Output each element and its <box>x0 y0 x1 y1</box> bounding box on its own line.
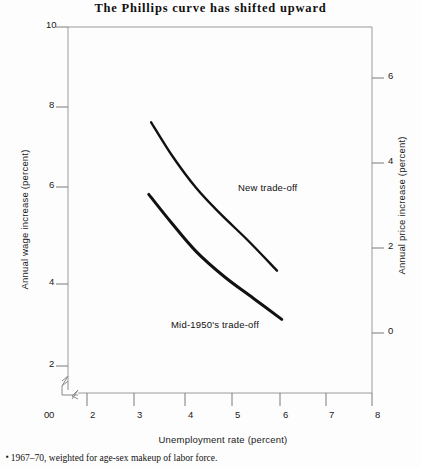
footnote-text: 1967–70, weighted for age-sex makeup of … <box>11 453 218 463</box>
x-tick-label-7: 7 <box>329 409 334 420</box>
y-tick-label-6: 6 <box>49 179 54 190</box>
chart-footnote: ▪1967–70, weighted for age-sex makeup of… <box>6 452 217 463</box>
annotation-mid-1950s-trade-off: Mid-1950's trade-off <box>171 319 259 330</box>
x-tick-label-0: 0 <box>44 409 49 420</box>
y-tick-label-10: 10 <box>46 19 57 30</box>
chart-plot-area <box>0 0 421 467</box>
x-tick-label-5: 5 <box>235 409 240 420</box>
y2-tick-label-6: 6 <box>388 70 393 81</box>
y-tick-label-4: 4 <box>49 276 54 287</box>
curve-new-trade-off <box>151 122 277 270</box>
y-axis-title: Annual wage increase (percent) <box>19 120 30 320</box>
annotation-new-trade-off: New trade-off <box>238 182 297 193</box>
x-axis-title: Unemployment rate (percent) <box>118 434 328 445</box>
x-tick-label-2: 2 <box>90 409 95 420</box>
y2-tick-label-0: 0 <box>388 325 393 336</box>
x-tick-label-6: 6 <box>283 409 288 420</box>
y-tick-label-0: 0 <box>49 409 54 420</box>
x-tick-label-4: 4 <box>188 409 193 420</box>
x-tick-label-8: 8 <box>375 409 380 420</box>
y-tick-label-2: 2 <box>49 358 54 369</box>
y2-axis-title: Annual price increase (percent) <box>396 106 407 306</box>
footnote-marker-icon: ▪ <box>6 452 9 461</box>
y-axis-break <box>62 376 68 390</box>
y2-tick-label-2: 2 <box>388 240 393 251</box>
curve-mid-1950s-trade-off <box>149 194 282 319</box>
y-tick-label-8: 8 <box>49 99 54 110</box>
x-tick-label-3: 3 <box>137 409 142 420</box>
phillips-curve-chart: The Phillips curve has shifted upward <box>0 0 421 467</box>
y2-tick-label-4: 4 <box>388 155 393 166</box>
